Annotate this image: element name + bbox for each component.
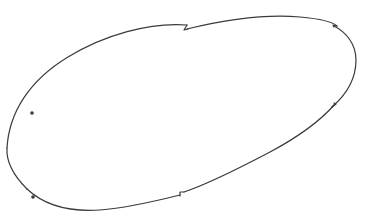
node-left-lower-marker xyxy=(31,195,35,199)
ellipse-figure: Hand-drawn tilted ellipse outline xyxy=(0,0,367,218)
background-plate xyxy=(0,0,367,218)
node-left-upper-marker xyxy=(30,111,34,115)
figure-canvas: Hand-drawn tilted ellipse outline xyxy=(0,0,367,218)
